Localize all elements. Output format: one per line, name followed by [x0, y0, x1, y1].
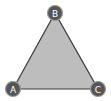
triangle-shape	[13, 13, 98, 89]
triangle-diagram: A B C	[0, 0, 111, 101]
vertex-a: A	[6, 82, 21, 97]
vertex-b-label: B	[52, 9, 58, 19]
vertex-b: B	[48, 6, 63, 21]
vertex-c: C	[91, 82, 106, 97]
vertex-a-label: A	[10, 85, 17, 95]
vertex-c-label: C	[95, 85, 101, 95]
